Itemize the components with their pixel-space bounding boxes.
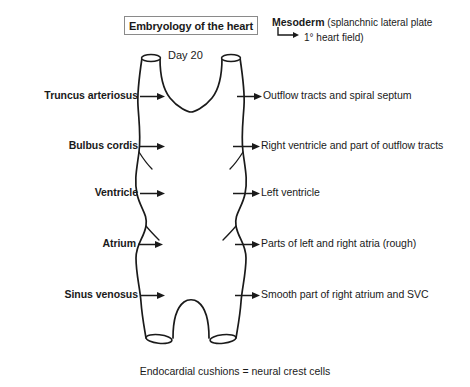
constriction-tick-right-lower <box>223 226 236 240</box>
day-label: Day 20 <box>168 49 203 61</box>
arrow-left-bulbus-cordis <box>140 142 166 151</box>
arrow-left-atrium <box>138 240 164 249</box>
label-bulbus-cordis: Bulbus cordis <box>69 139 138 151</box>
arrow-right-sinus-venosus <box>235 291 261 300</box>
outcome-sinus-venosus: Smooth part of right atrium and SVC <box>261 288 429 300</box>
label-atrium: Atrium <box>102 237 136 249</box>
mesoderm-detail: (splanchnic lateral plate <box>327 17 432 28</box>
arrow-right-ventricle <box>233 189 261 198</box>
elbow-arrow-icon <box>276 27 302 39</box>
label-truncus-arteriosus: Truncus arteriosus <box>44 89 138 101</box>
tube-rim-top-right <box>222 54 241 61</box>
mesoderm-note: Mesoderm (splanchnic lateral plate 1° he… <box>272 16 468 44</box>
arrow-left-truncus-arteriosus <box>140 92 166 101</box>
mesoderm-subdetail: 1° heart field) <box>304 32 364 43</box>
arrow-right-truncus-arteriosus <box>237 92 263 101</box>
constriction-tick-right-upper <box>230 152 243 169</box>
tube-rim-top-left <box>142 54 161 61</box>
diagram-canvas: Embryology of the heart Mesoderm (splanc… <box>0 0 470 387</box>
arrow-left-sinus-venosus <box>140 291 166 300</box>
tube-bottom-inner-fork <box>173 300 209 338</box>
constriction-tick-left-lower <box>146 226 159 240</box>
outcome-ventricle: Left ventricle <box>261 186 320 198</box>
page-title-text: Embryology of the heart <box>129 20 253 32</box>
outcome-atrium: Parts of left and right atria (rough) <box>261 237 416 249</box>
outcome-truncus-arteriosus: Outflow tracts and spiral septum <box>263 89 411 101</box>
mesoderm-note-line2: 1° heart field) <box>272 31 468 44</box>
constriction-tick-left-upper <box>139 152 152 169</box>
arrow-right-bulbus-cordis <box>233 142 261 151</box>
label-sinus-venosus: Sinus venosus <box>65 288 138 300</box>
arrow-right-atrium <box>235 240 261 249</box>
page-title: Embryology of the heart <box>124 16 258 35</box>
footer-caption: Endocardial cushions = neural crest cell… <box>0 365 470 377</box>
label-ventricle: Ventricle <box>95 186 138 198</box>
tube-rim-bottom-right <box>210 333 237 344</box>
arrow-left-ventricle <box>140 189 166 198</box>
tube-top-u-inner <box>160 58 222 112</box>
tube-rim-bottom-left <box>146 333 173 344</box>
outcome-bulbus-cordis: Right ventricle and part of outflow trac… <box>261 139 443 151</box>
